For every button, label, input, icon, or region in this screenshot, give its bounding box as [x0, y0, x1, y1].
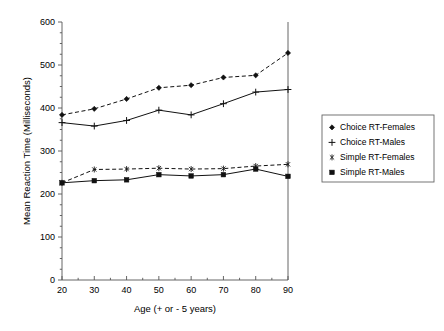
y-tick-label-300: 300 [40, 146, 55, 156]
y-tick-label-400: 400 [40, 103, 55, 113]
x-tick-label-40: 40 [122, 285, 132, 295]
data-point-50 [157, 172, 162, 177]
data-point-90 [286, 174, 291, 179]
data-point-60 [189, 174, 194, 179]
legend-label: Simple RT-Females [340, 152, 414, 162]
x-tick-marks [62, 276, 288, 280]
x-tick-labels: 2030405060708090 [57, 285, 293, 295]
data-point-60 [189, 83, 194, 88]
data-point-80 [252, 89, 259, 96]
legend-label: Choice RT-Males [340, 137, 405, 147]
y-axis-title: Mean Reaction Time (Milliseconds) [21, 77, 32, 225]
data-point-90 [285, 86, 292, 93]
x-tick-label-50: 50 [154, 285, 164, 295]
y-tick-marks [58, 22, 62, 280]
data-point-70 [221, 172, 226, 177]
legend-marker-square [330, 170, 335, 175]
data-point-50 [156, 85, 161, 90]
data-point-80 [253, 167, 258, 172]
legend: Choice RT-FemalesChoice RT-MalesSimple R… [322, 115, 434, 182]
data-point-60 [188, 111, 195, 118]
series-line [62, 53, 288, 115]
y-tick-label-500: 500 [40, 60, 55, 70]
data-point-40 [124, 96, 129, 101]
data-point-90 [285, 50, 290, 55]
x-axis-title: Age (+ or - 5 years) [134, 303, 216, 314]
reaction-time-figure: 0100200300400500600 2030405060708090 Mea… [0, 0, 444, 331]
legend-label: Simple RT-Males [340, 167, 405, 177]
y-tick-label-200: 200 [40, 189, 55, 199]
series-choice-rt-females [59, 50, 290, 117]
x-tick-label-30: 30 [89, 285, 99, 295]
data-point-40 [124, 178, 129, 183]
data-point-40 [123, 117, 130, 124]
data-point-70 [220, 100, 227, 107]
data-point-50 [155, 107, 162, 114]
y-tick-label-600: 600 [40, 17, 55, 27]
x-tick-label-80: 80 [251, 285, 261, 295]
chart-canvas: 0100200300400500600 2030405060708090 Mea… [0, 0, 444, 331]
x-tick-label-60: 60 [186, 285, 196, 295]
x-tick-label-70: 70 [218, 285, 228, 295]
x-tick-label-90: 90 [283, 285, 293, 295]
data-point-30 [92, 106, 97, 111]
y-tick-labels: 0100200300400500600 [40, 17, 55, 285]
data-point-70 [221, 75, 226, 80]
data-point-20 [59, 112, 64, 117]
data-point-20 [59, 119, 66, 126]
axes-group [58, 22, 288, 280]
data-point-30 [91, 123, 98, 130]
data-series-layer [59, 50, 292, 185]
x-tick-label-20: 20 [57, 285, 67, 295]
y-tick-label-100: 100 [40, 232, 55, 242]
data-point-20 [60, 181, 65, 186]
legend-label: Choice RT-Females [340, 122, 415, 132]
data-point-30 [92, 178, 97, 183]
y-tick-label-0: 0 [50, 275, 55, 285]
